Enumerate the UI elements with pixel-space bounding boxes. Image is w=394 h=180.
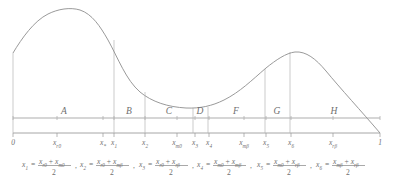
equation-lhs-x2: x2 — [79, 160, 86, 171]
equation-denominator-x4: 2 — [227, 168, 231, 177]
tick-label-x5: x5 — [262, 138, 269, 149]
equation-numerator-x4: xm0 + xmβ — [213, 157, 242, 168]
equation-lhs-x1: x1 — [21, 160, 28, 171]
tick-label-x1: x1 — [110, 138, 117, 149]
tick-label-x6: x6 — [287, 138, 294, 149]
region-label-H: H — [330, 106, 339, 116]
equation-separator-2: , — [192, 161, 194, 170]
region-label-C: C — [166, 106, 173, 116]
equation-x1: x1=xr0 + xm02, — [21, 157, 77, 177]
figure-container: ABCDFGH0xr0x*x1x2xm0x3x4xmβx5x6xrβ1x1=xr… — [0, 0, 394, 180]
region-label-B: B — [126, 106, 132, 116]
equation-x2: x2=xr0 + xmβ2, — [79, 157, 135, 177]
tick-label-xmb: xmβ — [238, 138, 249, 149]
equation-lhs-x6: x6 — [315, 160, 322, 171]
equation-separator-3: , — [250, 161, 252, 170]
equation-numerator-x1: xr0 + xm0 — [38, 157, 65, 168]
tick-label-xstar: x* — [99, 138, 106, 149]
tick-label-xr0: xr0 — [52, 138, 61, 149]
equation-denominator-x5: 2 — [287, 168, 291, 177]
equation-equals-x6: = — [325, 160, 329, 169]
equation-lhs-x4: x4 — [196, 160, 203, 171]
equation-equals-x4: = — [206, 160, 210, 169]
tick-label-x4: x4 — [205, 138, 212, 149]
equation-numerator-x2: xr0 + xmβ — [96, 157, 123, 168]
equation-equals-x5: = — [266, 160, 270, 169]
equation-denominator-x1: 2 — [52, 168, 56, 177]
tick-label-xrb: xrβ — [328, 138, 337, 149]
diagram-svg: ABCDFGH0xr0x*x1x2xm0x3x4xmβx5x6xrβ1x1=xr… — [0, 0, 394, 180]
equation-x3: x3=xr0 + xrβ2, — [138, 157, 194, 177]
equation-x4: x4=xm0 + xmβ2, — [196, 157, 252, 177]
equation-equals-x3: = — [148, 160, 152, 169]
equation-separator-4: , — [310, 161, 312, 170]
tick-label-x3: x3 — [191, 138, 198, 149]
equation-denominator-x6: 2 — [346, 168, 350, 177]
tick-label-one: 1 — [378, 138, 382, 147]
equation-numerator-x6: xmβ + xrβ — [332, 157, 359, 168]
equation-equals-x2: = — [89, 160, 93, 169]
equation-numerator-x5: xm0 + xrβ — [273, 157, 300, 168]
region-label-A: A — [60, 106, 67, 116]
equation-equals-x1: = — [31, 160, 35, 169]
equation-numerator-x3: xr0 + xrβ — [155, 157, 180, 168]
tick-label-xm0: xm0 — [171, 138, 182, 149]
region-label-F: F — [232, 106, 239, 116]
equation-denominator-x2: 2 — [110, 168, 114, 177]
tick-label-x2: x2 — [141, 138, 148, 149]
region-label-D: D — [196, 106, 204, 116]
equation-lhs-x5: x5 — [256, 160, 263, 171]
equation-x6: x6=xmβ + xrβ2 — [315, 157, 365, 177]
equation-lhs-x3: x3 — [138, 160, 145, 171]
region-label-G: G — [274, 106, 281, 116]
tick-label-zero: 0 — [11, 138, 15, 147]
equation-separator-0: , — [75, 161, 77, 170]
equation-denominator-x3: 2 — [169, 168, 173, 177]
equation-separator-1: , — [133, 161, 135, 170]
equation-x5: x5=xm0 + xrβ2, — [256, 157, 312, 177]
